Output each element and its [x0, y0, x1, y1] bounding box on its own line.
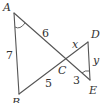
- length-label-ac: 6: [42, 27, 49, 40]
- length-label-cd: x: [72, 38, 79, 51]
- vertex-label-c: C: [58, 64, 67, 77]
- angle-mark-a: [15, 23, 25, 28]
- vertex-label-d: D: [90, 28, 100, 41]
- length-label-ce: 3: [73, 74, 80, 87]
- segment-ae: [14, 13, 90, 80]
- triangle-diagram: A B C D E 6 7 5 3 x y: [0, 0, 106, 103]
- vertex-label-a: A: [2, 1, 11, 14]
- length-label-ab: 7: [6, 49, 13, 62]
- vertex-label-b: B: [11, 96, 20, 103]
- length-label-bc: 5: [45, 77, 52, 90]
- angle-mark-e: [82, 71, 89, 73]
- length-label-de: y: [92, 54, 100, 67]
- segment-ab: [14, 13, 19, 94]
- segment-de: [88, 42, 90, 80]
- vertex-label-e: E: [88, 84, 97, 97]
